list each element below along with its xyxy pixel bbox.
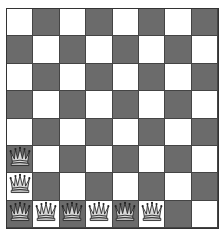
square-h1[interactable]: [192, 201, 218, 228]
square-f2[interactable]: [139, 173, 165, 200]
square-a7[interactable]: [7, 36, 33, 63]
square-f5[interactable]: [139, 91, 165, 118]
square-a3[interactable]: [7, 146, 33, 173]
square-d5[interactable]: [86, 91, 112, 118]
white-queen-icon[interactable]: [140, 201, 164, 227]
square-g7[interactable]: [165, 36, 191, 63]
white-queen-icon[interactable]: [34, 201, 58, 227]
square-b7[interactable]: [33, 36, 59, 63]
white-queen-icon[interactable]: [8, 201, 32, 227]
square-e4[interactable]: [113, 119, 139, 146]
white-queen-icon[interactable]: [8, 146, 32, 172]
square-b5[interactable]: [33, 91, 59, 118]
square-c1[interactable]: [60, 201, 86, 228]
square-d2[interactable]: [86, 173, 112, 200]
square-h3[interactable]: [192, 146, 218, 173]
square-h4[interactable]: [192, 119, 218, 146]
square-e5[interactable]: [113, 91, 139, 118]
square-b2[interactable]: [33, 173, 59, 200]
square-b8[interactable]: [33, 9, 59, 36]
square-e2[interactable]: [113, 173, 139, 200]
square-d8[interactable]: [86, 9, 112, 36]
square-g8[interactable]: [165, 9, 191, 36]
square-a5[interactable]: [7, 91, 33, 118]
white-queen-icon[interactable]: [113, 201, 137, 227]
square-c8[interactable]: [60, 9, 86, 36]
square-a8[interactable]: [7, 9, 33, 36]
square-f1[interactable]: [139, 201, 165, 228]
square-h6[interactable]: [192, 64, 218, 91]
square-g5[interactable]: [165, 91, 191, 118]
chessboard: [6, 8, 219, 229]
square-g4[interactable]: [165, 119, 191, 146]
square-b1[interactable]: [33, 201, 59, 228]
square-f4[interactable]: [139, 119, 165, 146]
square-h2[interactable]: [192, 173, 218, 200]
square-c3[interactable]: [60, 146, 86, 173]
square-f6[interactable]: [139, 64, 165, 91]
square-a4[interactable]: [7, 119, 33, 146]
square-f8[interactable]: [139, 9, 165, 36]
square-b4[interactable]: [33, 119, 59, 146]
square-g1[interactable]: [165, 201, 191, 228]
square-g3[interactable]: [165, 146, 191, 173]
square-e8[interactable]: [113, 9, 139, 36]
square-b3[interactable]: [33, 146, 59, 173]
square-h5[interactable]: [192, 91, 218, 118]
square-d1[interactable]: [86, 201, 112, 228]
square-d7[interactable]: [86, 36, 112, 63]
square-e6[interactable]: [113, 64, 139, 91]
square-d6[interactable]: [86, 64, 112, 91]
square-h8[interactable]: [192, 9, 218, 36]
white-queen-icon[interactable]: [8, 173, 32, 199]
square-a2[interactable]: [7, 173, 33, 200]
square-e3[interactable]: [113, 146, 139, 173]
square-a1[interactable]: [7, 201, 33, 228]
square-g2[interactable]: [165, 173, 191, 200]
square-c2[interactable]: [60, 173, 86, 200]
square-d3[interactable]: [86, 146, 112, 173]
square-a6[interactable]: [7, 64, 33, 91]
square-d4[interactable]: [86, 119, 112, 146]
square-f7[interactable]: [139, 36, 165, 63]
square-e7[interactable]: [113, 36, 139, 63]
square-h7[interactable]: [192, 36, 218, 63]
square-c4[interactable]: [60, 119, 86, 146]
square-f3[interactable]: [139, 146, 165, 173]
square-c6[interactable]: [60, 64, 86, 91]
square-c5[interactable]: [60, 91, 86, 118]
square-g6[interactable]: [165, 64, 191, 91]
square-e1[interactable]: [113, 201, 139, 228]
white-queen-icon[interactable]: [87, 201, 111, 227]
white-queen-icon[interactable]: [60, 201, 84, 227]
square-c7[interactable]: [60, 36, 86, 63]
square-b6[interactable]: [33, 64, 59, 91]
